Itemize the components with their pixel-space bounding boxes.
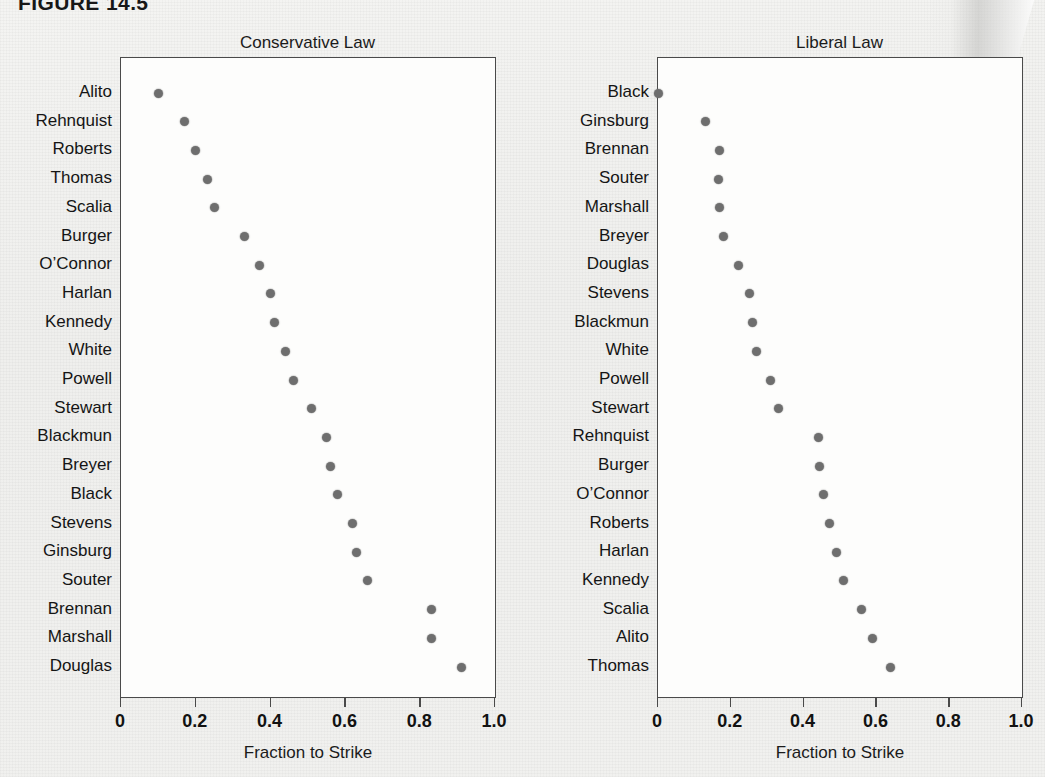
x-axis-title-liberal-law: Fraction to Strike bbox=[657, 743, 1023, 763]
data-point bbox=[857, 605, 866, 614]
x-axis-tick bbox=[803, 698, 804, 707]
data-point bbox=[868, 634, 877, 643]
data-point bbox=[745, 289, 754, 298]
plot-area-liberal-law bbox=[657, 57, 1023, 698]
chart-title-liberal-law: Liberal Law bbox=[657, 33, 1022, 53]
data-point bbox=[814, 433, 823, 442]
x-axis-tick bbox=[657, 698, 658, 707]
y-axis-labels-liberal-law: BlackGinsburgBrennanSouterMarshallBreyer… bbox=[520, 57, 649, 698]
y-axis-tick-label: Alito bbox=[616, 627, 649, 647]
x-axis-tick-label: 0.6 bbox=[863, 711, 888, 732]
y-axis-tick-label: Black bbox=[607, 82, 649, 102]
data-point bbox=[266, 289, 275, 298]
y-axis-tick-label: Douglas bbox=[587, 254, 649, 274]
data-point bbox=[825, 519, 834, 528]
y-axis-labels-conservative-law: AlitoRehnquistRobertsThomasScaliaBurgerO… bbox=[0, 57, 112, 698]
data-point bbox=[352, 548, 361, 557]
y-axis-tick-label: Roberts bbox=[589, 513, 649, 533]
y-axis-tick-label: White bbox=[606, 340, 649, 360]
y-axis-tick-label: Breyer bbox=[62, 455, 112, 475]
data-point bbox=[701, 117, 710, 126]
x-axis-tick-label: 0.4 bbox=[257, 711, 282, 732]
y-axis-tick-label: Scalia bbox=[66, 197, 112, 217]
x-axis-tick-label: 0.6 bbox=[332, 711, 357, 732]
y-axis-tick-label: Douglas bbox=[50, 656, 112, 676]
plot-area-conservative-law bbox=[120, 57, 496, 698]
data-point bbox=[333, 490, 342, 499]
data-point bbox=[886, 663, 895, 672]
x-axis-title-conservative-law: Fraction to Strike bbox=[120, 743, 496, 763]
data-point bbox=[255, 261, 264, 270]
y-axis-tick-label: Stevens bbox=[588, 283, 649, 303]
y-axis-tick-label: Souter bbox=[599, 168, 649, 188]
y-axis-tick-label: Burger bbox=[598, 455, 649, 475]
data-point bbox=[457, 663, 466, 672]
data-points-liberal-law bbox=[658, 58, 1022, 697]
y-axis-tick-label: Harlan bbox=[62, 283, 112, 303]
y-axis-tick-label: Burger bbox=[61, 226, 112, 246]
data-point bbox=[326, 462, 335, 471]
y-axis-tick-label: Ginsburg bbox=[580, 111, 649, 131]
data-point bbox=[715, 203, 724, 212]
y-axis-tick-label: Blackmun bbox=[574, 312, 649, 332]
y-axis-tick-label: Kennedy bbox=[45, 312, 112, 332]
data-point bbox=[839, 576, 848, 585]
chart-panel-liberal-law: Liberal Law BlackGinsburgBrennanSouterMa… bbox=[520, 0, 1045, 777]
y-axis-tick-label: Souter bbox=[62, 570, 112, 590]
data-point bbox=[363, 576, 372, 585]
y-axis-tick-label: Roberts bbox=[52, 139, 112, 159]
x-axis-tick bbox=[948, 698, 949, 707]
data-points-conservative-law bbox=[121, 58, 495, 697]
x-axis-tick-label: 0.8 bbox=[407, 711, 432, 732]
data-point bbox=[289, 376, 298, 385]
x-axis-tick-label: 0 bbox=[652, 711, 662, 732]
y-axis-tick-label: Rehnquist bbox=[572, 426, 649, 446]
x-axis-tick bbox=[1021, 698, 1022, 707]
data-point bbox=[180, 117, 189, 126]
y-axis-tick-label: O’Connor bbox=[39, 254, 112, 274]
y-axis-tick-label: Stewart bbox=[54, 398, 112, 418]
x-axis-tick bbox=[120, 698, 121, 707]
data-point bbox=[154, 89, 163, 98]
x-axis-conservative-law: 00.20.40.60.81.0 bbox=[120, 698, 496, 738]
data-point bbox=[348, 519, 357, 528]
x-axis-tick-label: 0 bbox=[115, 711, 125, 732]
y-axis-tick-label: Powell bbox=[599, 369, 649, 389]
data-point bbox=[654, 89, 663, 98]
x-axis-tick-label: 1.0 bbox=[481, 711, 506, 732]
data-point bbox=[322, 433, 331, 442]
y-axis-tick-label: Alito bbox=[79, 82, 112, 102]
y-axis-tick-label: White bbox=[69, 340, 112, 360]
data-point bbox=[815, 462, 824, 471]
y-axis-tick-label: Ginsburg bbox=[43, 541, 112, 561]
x-axis-tick-label: 0.2 bbox=[717, 711, 742, 732]
x-axis-tick bbox=[195, 698, 196, 707]
x-axis-tick bbox=[875, 698, 876, 707]
y-axis-tick-label: Powell bbox=[62, 369, 112, 389]
y-axis-tick-label: Brennan bbox=[48, 599, 112, 619]
data-point bbox=[752, 347, 761, 356]
data-point bbox=[832, 548, 841, 557]
y-axis-tick-label: Marshall bbox=[48, 627, 112, 647]
data-point bbox=[427, 634, 436, 643]
data-point bbox=[766, 376, 775, 385]
data-point bbox=[270, 318, 279, 327]
data-point bbox=[210, 203, 219, 212]
data-point bbox=[240, 232, 249, 241]
chart-panel-conservative-law: Conservative Law AlitoRehnquistRobertsTh… bbox=[0, 0, 520, 777]
x-axis-tick bbox=[270, 698, 271, 707]
y-axis-tick-label: Brennan bbox=[585, 139, 649, 159]
data-point bbox=[307, 404, 316, 413]
data-point bbox=[191, 146, 200, 155]
x-axis-tick bbox=[344, 698, 345, 707]
data-point bbox=[719, 232, 728, 241]
x-axis-tick-label: 0.4 bbox=[790, 711, 815, 732]
data-point bbox=[203, 175, 212, 184]
y-axis-tick-label: Harlan bbox=[599, 541, 649, 561]
y-axis-tick-label: Kennedy bbox=[582, 570, 649, 590]
chart-title-conservative-law: Conservative Law bbox=[120, 33, 495, 53]
data-point bbox=[748, 318, 757, 327]
data-point bbox=[734, 261, 743, 270]
y-axis-tick-label: Thomas bbox=[588, 656, 649, 676]
y-axis-tick-label: O’Connor bbox=[576, 484, 649, 504]
